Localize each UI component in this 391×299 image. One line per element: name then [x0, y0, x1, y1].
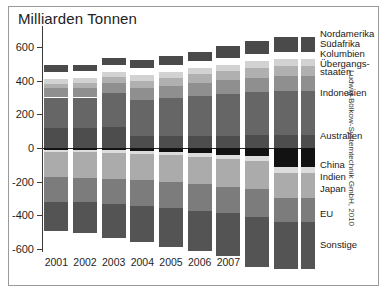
bar-segment	[44, 98, 68, 128]
bar-segment	[245, 68, 269, 78]
bar-segment	[216, 71, 240, 80]
bar-segment	[102, 127, 126, 148]
bar-segment	[245, 161, 269, 189]
bar-segment-nordamerika	[159, 56, 183, 65]
bar-column[interactable]	[245, 26, 269, 252]
y-tick-label: -200	[0, 177, 34, 187]
bar-segment	[130, 100, 154, 136]
bar-segment	[102, 153, 126, 179]
bar-segment	[130, 81, 154, 88]
bar-segment	[216, 136, 240, 148]
y-tick-label: 0	[0, 143, 34, 153]
legend-swatch-nordamerika	[301, 37, 315, 52]
bar-segment	[73, 202, 97, 232]
bar-segment	[44, 79, 68, 84]
bar-segment	[44, 84, 68, 88]
bar-segment	[159, 72, 183, 78]
y-tick-label: -400	[0, 210, 34, 220]
bar-segment	[44, 88, 68, 97]
bar-segment	[216, 65, 240, 71]
legend-swatch	[301, 148, 315, 167]
bar-segment	[216, 159, 240, 187]
bar-segment	[73, 152, 97, 178]
bar-segment-nordamerika	[188, 52, 212, 62]
bar-segment	[245, 78, 269, 92]
chart-title: Milliarden Tonnen	[18, 10, 137, 27]
bar-segment	[216, 80, 240, 94]
bar-segment	[216, 94, 240, 135]
legend-label: Sonstige	[320, 240, 357, 250]
bar-segment	[73, 98, 97, 128]
bar-column[interactable]	[130, 26, 154, 252]
legend-swatch	[301, 76, 315, 91]
bar-segment	[159, 98, 183, 136]
bar-segment	[130, 154, 154, 181]
bar-segment	[102, 93, 126, 127]
bar-column[interactable]	[102, 26, 126, 252]
bar-segment	[216, 148, 240, 155]
bar-segment	[274, 135, 298, 148]
bar-segment	[274, 222, 298, 269]
bar-column[interactable]	[159, 26, 183, 252]
bar-segment	[274, 198, 298, 222]
y-tick-label: 600	[0, 42, 34, 52]
bar-segment	[216, 213, 240, 256]
bar-segment-nordamerika	[73, 65, 97, 72]
y-axis-line	[42, 26, 43, 252]
bar-segment	[274, 59, 298, 66]
bar-segment	[274, 173, 298, 198]
bar-segment	[44, 152, 68, 177]
bar-segment	[102, 179, 126, 204]
x-tick-label: 2001	[41, 256, 71, 268]
legend-label: Indien	[320, 172, 346, 182]
legend-swatch	[301, 173, 315, 198]
bar-column[interactable]	[188, 26, 212, 252]
bar-segment-nordamerika	[216, 46, 240, 58]
x-tick-label: 2006	[185, 256, 215, 268]
bar-segment	[245, 92, 269, 135]
x-tick-label: 2005	[156, 256, 186, 268]
bar-segment-nordamerika	[130, 60, 154, 68]
y-tick-label: 200	[0, 109, 34, 119]
legend-label: China	[320, 160, 345, 170]
bar-column[interactable]	[73, 26, 97, 252]
bar-segment	[274, 66, 298, 76]
legend-label: EU	[320, 209, 333, 219]
bar-segment	[188, 211, 212, 251]
bar-segment	[102, 204, 126, 238]
bar-segment	[274, 148, 298, 167]
bar-segment	[188, 157, 212, 184]
bar-segment	[159, 78, 183, 86]
bar-segment	[274, 91, 298, 135]
bar-segment	[130, 75, 154, 81]
bar-column[interactable]	[216, 26, 240, 252]
bar-segment	[216, 187, 240, 214]
bar-segment	[245, 148, 269, 156]
bar-segment	[159, 155, 183, 182]
legend-swatches	[301, 26, 315, 252]
bar-segment-nordamerika	[274, 37, 298, 52]
bar-segment-nordamerika	[44, 65, 68, 72]
bar-segment	[245, 189, 269, 216]
bar-segment	[188, 136, 212, 148]
chart-screenshot: Milliarden Tonnen 6004002000-200-400-600…	[0, 0, 391, 299]
y-tick	[37, 114, 43, 115]
bar-segment	[44, 128, 68, 148]
bar-segment	[188, 184, 212, 211]
y-tick	[37, 81, 43, 82]
bar-segment	[159, 136, 183, 148]
bar-segment	[130, 88, 154, 100]
bar-segment	[245, 61, 269, 68]
bar-segment	[274, 76, 298, 91]
bar-segment	[73, 88, 97, 98]
bar-column[interactable]	[274, 26, 298, 252]
legend-swatch	[301, 59, 315, 66]
bar-segment	[44, 177, 68, 201]
bar-column[interactable]	[44, 26, 68, 252]
bar-segment-nordamerika	[245, 41, 269, 54]
x-tick-label: 2007	[213, 256, 243, 268]
bar-segment	[102, 72, 126, 77]
bar-segment	[159, 208, 183, 247]
bar-segment	[44, 202, 68, 231]
bar-segment	[73, 78, 97, 83]
